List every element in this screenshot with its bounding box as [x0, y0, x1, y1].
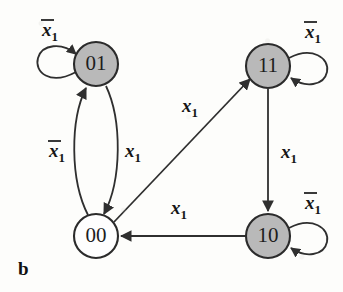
edge-label-01-to-00-sub: 1 — [135, 150, 142, 165]
edge-label-01-self-text: x1 — [41, 19, 58, 44]
edge-label-11-to-10: x1 — [280, 141, 297, 166]
edge-label-10-self: x1 — [304, 192, 321, 217]
edge-label-11-self-base: x — [304, 21, 315, 42]
state-node-11-label: 11 — [258, 53, 278, 77]
figure-caption: b — [18, 258, 29, 279]
edge-label-01-to-00-base: x — [124, 140, 135, 161]
edge-label-00-to-01-sub: 1 — [59, 150, 66, 165]
edge-label-10-to-00-base: x — [170, 197, 181, 218]
edge-label-00-to-11-text: x1 — [181, 95, 198, 120]
edge-label-01-self-base: x — [41, 19, 52, 40]
edge-label-10-self-text: x1 — [304, 192, 321, 217]
edge-label-01-self: x1 — [41, 19, 58, 44]
edge-label-11-self: x1 — [304, 21, 321, 46]
edge-label-11-to-10-base: x — [280, 141, 291, 162]
edge-label-00-to-11-base: x — [181, 95, 192, 116]
edge-label-11-to-10-text: x1 — [280, 141, 297, 166]
edge-label-00-to-01-text: x1 — [48, 140, 65, 165]
edge-label-10-self-base: x — [304, 192, 315, 213]
self-loop-01 — [37, 46, 76, 78]
state-node-00-label: 00 — [86, 223, 107, 247]
edge-01-to-00 — [104, 86, 118, 214]
edge-label-10-to-00-sub: 1 — [181, 207, 188, 222]
edge-label-00-to-11-sub: 1 — [192, 105, 199, 120]
state-node-11[interactable]: 11 — [246, 44, 290, 88]
state-node-00[interactable]: 00 — [74, 214, 118, 258]
state-diagram-figure: 01 11 00 10 x1 x1 x1 — [0, 0, 343, 292]
edge-label-11-self-text: x1 — [304, 21, 321, 46]
edge-00-to-01 — [74, 88, 88, 215]
edge-label-01-to-00: x1 — [124, 140, 141, 165]
edge-label-01-self-sub: 1 — [52, 29, 59, 44]
edge-label-00-to-01: x1 — [48, 140, 65, 165]
state-node-01[interactable]: 01 — [74, 42, 118, 86]
edge-label-00-to-01-base: x — [48, 140, 59, 161]
edge-label-10-to-00-text: x1 — [170, 197, 187, 222]
self-loop-10 — [289, 223, 327, 254]
state-diagram-canvas: 01 11 00 10 x1 x1 x1 — [0, 0, 343, 292]
edge-label-11-to-10-sub: 1 — [291, 151, 298, 166]
edge-label-10-self-sub: 1 — [315, 202, 322, 217]
state-node-10-label: 10 — [258, 223, 279, 247]
edge-label-01-to-00-text: x1 — [124, 140, 141, 165]
edge-label-00-to-11: x1 — [181, 95, 198, 120]
state-node-10[interactable]: 10 — [246, 214, 290, 258]
self-loop-11 — [289, 53, 327, 84]
edge-label-11-self-sub: 1 — [315, 31, 322, 46]
state-node-01-label: 01 — [86, 51, 107, 75]
edge-label-10-to-00: x1 — [170, 197, 187, 222]
